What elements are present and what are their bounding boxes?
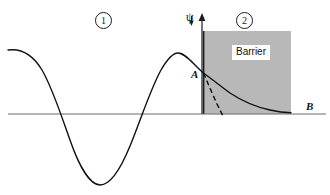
quantum-tunneling-figure: 1 2 ψ Barrier A B: [0, 0, 330, 195]
barrier-caption-label: Barrier: [232, 45, 270, 60]
psi-symbol-label: ψ: [186, 11, 194, 23]
region-two-badge: 2: [236, 12, 253, 29]
point-b-label: B: [306, 101, 313, 112]
figure-canvas: [0, 0, 330, 195]
incident-wave-curve: [8, 50, 203, 185]
psi-axis-arrowhead-icon: [199, 13, 206, 21]
barrier-region: [203, 31, 291, 114]
point-a-label: A: [191, 69, 198, 80]
region-one-badge: 1: [95, 12, 112, 29]
